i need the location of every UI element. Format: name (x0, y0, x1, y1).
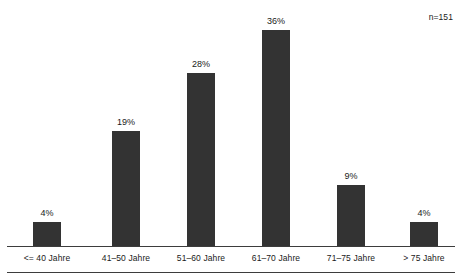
bar-rect[interactable] (337, 185, 365, 247)
bar-value-label: 28% (192, 59, 210, 70)
category-label-5: > 75 Jahre (379, 253, 461, 264)
bar-value-label: 4% (417, 208, 430, 219)
bar-rect[interactable] (112, 131, 140, 247)
bar-group-4: 9% (313, 0, 389, 247)
bar-rect[interactable] (187, 73, 215, 247)
bar-value-label: 36% (267, 16, 285, 27)
category-axis: <= 40 Jahre 41–50 Jahre 51–60 Jahre 61–7… (0, 249, 461, 271)
bar-group-3: 36% (238, 0, 314, 247)
bar-rect[interactable] (262, 30, 290, 247)
bar-group-0: 4% (9, 0, 85, 247)
bar-value-label: 9% (344, 171, 357, 182)
bar-chart: n=151 4% 19% 28% 36% 9% 4% <= 40 Jah (0, 0, 461, 280)
plot-area: 4% 19% 28% 36% 9% 4% (0, 0, 461, 247)
bar-value-label: 19% (117, 117, 135, 128)
bar-rect[interactable] (33, 222, 61, 247)
bottom-rule (7, 272, 455, 273)
bar-value-label: 4% (40, 208, 53, 219)
x-axis-line (7, 246, 455, 247)
bar-rect[interactable] (410, 222, 438, 247)
bar-group-2: 28% (163, 0, 239, 247)
bar-group-1: 19% (88, 0, 164, 247)
bar-group-5: 4% (386, 0, 461, 247)
category-label-0: <= 40 Jahre (2, 253, 92, 264)
